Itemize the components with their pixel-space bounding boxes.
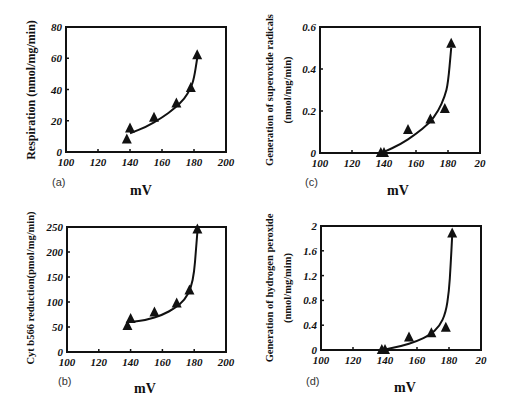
y-tick-label: 200 <box>46 246 64 258</box>
panel-label: (c) <box>305 176 318 188</box>
x-axis-label: mV <box>130 183 152 198</box>
triangle-marker <box>122 134 132 144</box>
plot-frame <box>321 226 481 350</box>
y-tick-label: 60 <box>51 52 63 64</box>
x-tick-label: 120 <box>344 157 361 169</box>
triangle-marker <box>446 38 456 48</box>
triangle-marker <box>186 82 196 92</box>
fit-curve <box>131 232 198 322</box>
y-tick-label: 2 <box>311 220 318 232</box>
y-tick-label: 0.4 <box>302 63 316 75</box>
triangle-marker <box>192 224 202 234</box>
triangle-marker <box>125 123 135 133</box>
chart-superoxide: Generation of superoxide radicals (nmol/… <box>264 14 486 198</box>
x-tick-label: 180 <box>440 157 457 169</box>
y-tick-label: 0 <box>312 344 318 356</box>
x-tick-label: 160 <box>409 354 426 366</box>
figure-panels: Respiration (nmol/mg/min) (a) mV 1001201… <box>0 0 506 410</box>
y-axis-label: Generation of hydrogen peroxide <box>264 213 275 362</box>
x-tick-label: 160 <box>154 156 171 168</box>
x-tick-label: 120 <box>90 156 107 168</box>
plot-frame <box>66 27 226 152</box>
y-tick-label: 250 <box>46 221 64 233</box>
triangle-marker <box>126 313 136 323</box>
y-axis-label: Cyt b566 reduction(pmol/mg/min) <box>25 211 37 365</box>
triangle-marker <box>404 332 414 342</box>
y-tick-label: 0.6 <box>302 21 316 33</box>
x-tick-label: 200 <box>217 356 235 368</box>
triangle-marker <box>149 307 159 317</box>
chart-cyt-b566: Cyt b566 reduction(pmol/mg/min) (b) mV 1… <box>25 211 235 396</box>
fit-curve <box>130 58 197 133</box>
plot-frame <box>67 227 226 352</box>
y-tick-label: 150 <box>47 271 64 283</box>
x-tick-label: 140 <box>377 354 394 366</box>
x-tick-label: 140 <box>376 157 393 169</box>
y-tick-label: 80 <box>51 21 63 33</box>
y-tick-label: 100 <box>47 296 64 308</box>
fit-curve <box>384 48 451 152</box>
x-axis-label: mV <box>387 183 409 198</box>
triangle-marker <box>184 285 194 295</box>
y-tick-label: 0 <box>311 147 317 159</box>
triangle-marker <box>192 49 202 59</box>
chart-hydrogen-peroxide: Generation of hydrogen peroxide (nmol/mg… <box>264 213 487 395</box>
chart-respiration: Respiration (nmol/mg/min) (a) mV 1001201… <box>24 20 235 198</box>
x-tick-label: 180 <box>441 354 458 366</box>
y-tick-label: 0.4 <box>303 319 317 331</box>
y-tick-label: 20 <box>50 115 63 127</box>
x-tick-label: 20 <box>474 157 487 169</box>
triangle-marker <box>447 227 457 237</box>
y-tick-label: 1.6 <box>303 245 317 257</box>
triangle-marker <box>149 112 159 122</box>
x-tick-label: 140 <box>122 356 139 368</box>
y-tick-label: 40 <box>50 84 63 96</box>
x-tick-label: 160 <box>154 356 171 368</box>
x-axis-label: mV <box>134 381 156 396</box>
y-tick-label: 50 <box>52 321 64 333</box>
y-tick-label: 0.2 <box>302 105 316 117</box>
y-axis-unit-label: (nmol/mg/mim) <box>282 253 294 323</box>
x-tick-label: 140 <box>122 156 139 168</box>
plot-frame <box>320 27 480 153</box>
y-tick-label: 0.8 <box>303 294 317 306</box>
x-tick-label: 120 <box>91 356 108 368</box>
panel-label: (a) <box>52 176 65 188</box>
y-axis-unit-label: (nmol/mg/min) <box>282 56 294 124</box>
y-tick-label: 1.2 <box>303 270 317 282</box>
y-axis-label: Respiration (nmol/mg/min) <box>24 20 38 160</box>
fit-curve <box>385 235 452 349</box>
panel-label: (d) <box>306 375 319 387</box>
triangle-marker <box>426 327 436 337</box>
x-tick-label: 180 <box>186 356 203 368</box>
x-tick-label: 200 <box>217 156 235 168</box>
x-tick-label: 160 <box>408 157 425 169</box>
x-axis-label: mV <box>394 380 416 395</box>
y-tick-label: 0 <box>58 346 64 358</box>
y-tick-label: 0 <box>57 146 63 158</box>
x-tick-label: 20 <box>475 354 488 366</box>
triangle-marker <box>441 322 451 332</box>
x-tick-label: 180 <box>186 156 203 168</box>
triangle-marker <box>403 124 413 134</box>
panel-label: (b) <box>58 375 71 387</box>
x-tick-label: 120 <box>345 354 362 366</box>
y-axis-label: Generation of superoxide radicals <box>264 14 275 166</box>
